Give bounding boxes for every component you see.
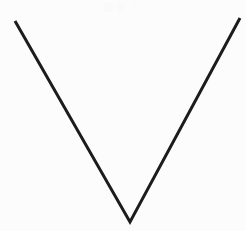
v-shape-figure xyxy=(0,0,246,231)
image-canvas xyxy=(0,0,246,231)
canvas-background xyxy=(0,0,246,231)
